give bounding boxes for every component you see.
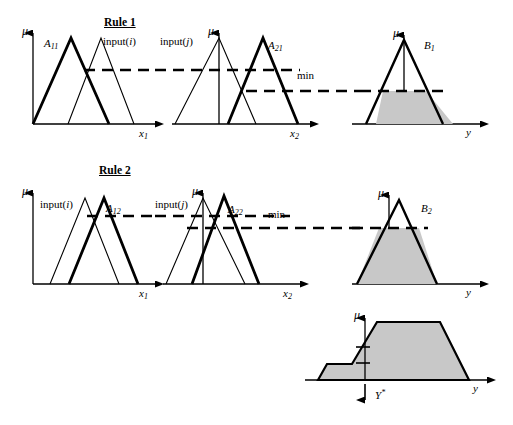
label-B1: B1 xyxy=(424,40,435,53)
clipped-area-B1-right xyxy=(404,91,453,124)
panel-rule2-consequent-y xyxy=(352,195,480,284)
rule-1-title: Rule 1 xyxy=(104,17,136,29)
axis-label-x1-rule1: x1 xyxy=(139,128,148,141)
mu-label-r1p2: μ xyxy=(208,25,214,37)
label-A21: A21 xyxy=(268,40,283,53)
axis-label-x2-rule2: x2 xyxy=(283,288,292,301)
inference-diagram-svg xyxy=(0,0,513,425)
mu-label-r1p1: μ xyxy=(22,25,28,37)
membership-input-j-rule1 xyxy=(175,38,256,124)
clipped-area-B1-left xyxy=(376,91,404,124)
mu-label-aggregate: μ xyxy=(354,309,360,321)
figure-canvas: Rule 1 Rule 2 μ μ μ A11 input(i) input(j… xyxy=(0,0,513,425)
mu-label-r1p3: μ xyxy=(393,27,399,39)
mu-label-r2p2: μ xyxy=(192,185,198,197)
axis-label-x2-rule1: x2 xyxy=(290,128,299,141)
aggregated-membership-area xyxy=(318,322,469,380)
label-input-j-rule2: input(j) xyxy=(155,199,188,210)
membership-A22 xyxy=(192,196,259,284)
label-input-j-rule1: input(j) xyxy=(160,36,193,47)
axis-label-y-aggregate: y xyxy=(473,383,478,394)
label-A11: A11 xyxy=(44,38,58,51)
mu-label-r2p1: μ xyxy=(22,185,28,197)
panel-rule1-consequent-y xyxy=(352,35,480,124)
membership-A21 xyxy=(228,38,298,124)
axis-label-x1-rule2: x1 xyxy=(139,288,148,301)
defuzzified-output-label: Y* xyxy=(375,389,385,401)
min-label-rule2: min xyxy=(268,209,285,220)
min-label-rule1: min xyxy=(297,70,314,81)
axis-label-y-rule1: y xyxy=(466,127,471,138)
rule-2-title: Rule 2 xyxy=(99,165,131,177)
axis-label-y-rule2: y xyxy=(466,287,471,298)
label-B2: B2 xyxy=(421,203,432,216)
label-input-i-rule1: input(i) xyxy=(103,36,136,47)
label-input-i-rule2: input(i) xyxy=(40,199,73,210)
label-A22: A22 xyxy=(228,204,243,217)
mu-label-r2p3: μ xyxy=(378,187,384,199)
panel-aggregated-output xyxy=(305,318,487,400)
label-A12: A12 xyxy=(106,203,121,216)
